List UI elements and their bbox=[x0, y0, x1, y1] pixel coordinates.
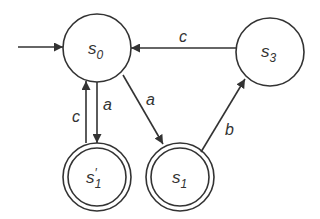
transition-s0-s1-prime[interactable]: a bbox=[97, 82, 112, 143]
state-s1[interactable]: s1 bbox=[146, 143, 214, 211]
transition-s0-s1-prime-label: a bbox=[103, 96, 112, 113]
state-s3-label: s3 bbox=[261, 42, 277, 65]
state-s0[interactable]: s0 bbox=[63, 14, 131, 82]
transition-s1-s3[interactable]: b bbox=[201, 79, 245, 152]
state-diagram: s0 s3 s′1 s1 c a c a b bbox=[0, 0, 320, 219]
transition-s1-s3-label: b bbox=[225, 121, 234, 138]
transition-s0-s1[interactable]: a bbox=[123, 75, 163, 144]
state-s3[interactable]: s3 bbox=[236, 18, 304, 86]
transition-s3-s0[interactable]: c bbox=[131, 28, 236, 48]
transition-s1-prime-s0-label: c bbox=[72, 108, 80, 125]
transition-s0-s1-label: a bbox=[146, 91, 155, 108]
state-s1-label: s1 bbox=[172, 168, 187, 191]
transition-s3-s0-label: c bbox=[179, 28, 187, 45]
state-s0-label: s0 bbox=[88, 39, 104, 62]
transition-s1-prime-s0[interactable]: c bbox=[72, 81, 86, 143]
state-s1-prime-label: s′1 bbox=[86, 166, 101, 191]
state-s1-prime[interactable]: s′1 bbox=[63, 143, 131, 211]
